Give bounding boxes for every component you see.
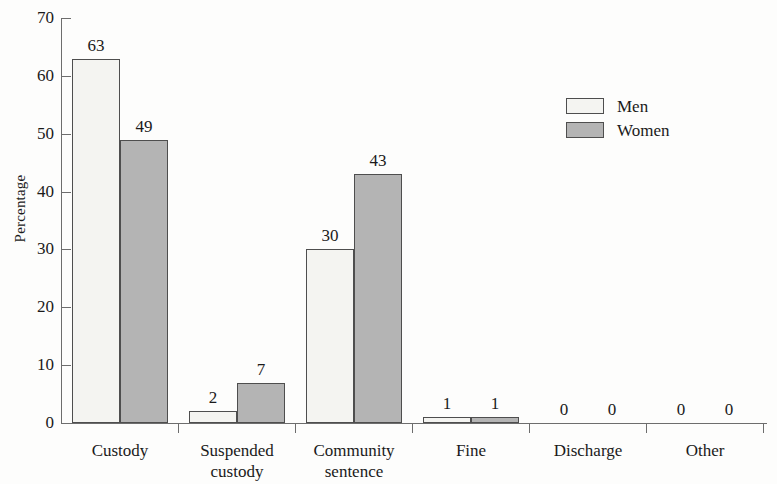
x-axis-tick [529, 424, 530, 433]
y-axis-tick-label: 60 [14, 67, 54, 84]
category-label-line: Suspended [171, 440, 303, 461]
category-label-3: Fine [405, 440, 537, 461]
y-axis-tick [61, 423, 71, 424]
bar-value-label: 0 [588, 401, 636, 418]
bar-value-label: 1 [423, 395, 471, 412]
bar-men-1 [189, 411, 237, 423]
legend: Men Women [566, 94, 669, 142]
bar-women-1 [237, 383, 285, 424]
category-label-line: Discharge [522, 440, 654, 461]
bar-men-2 [306, 249, 354, 423]
category-label-0: Custody [54, 440, 186, 461]
category-label-line: custody [171, 461, 303, 482]
bar-value-label: 7 [237, 361, 285, 378]
category-label-line: Community [288, 440, 420, 461]
x-axis-tick [178, 424, 179, 433]
y-axis-tick-label: 40 [14, 183, 54, 200]
y-axis-tick [61, 365, 71, 366]
bar-chart: Percentage 010203040506070 6349273043110… [0, 0, 777, 484]
category-label-line: Fine [405, 440, 537, 461]
category-label-line: sentence [288, 461, 420, 482]
category-label-5: Other [639, 440, 771, 461]
x-axis-tick [646, 424, 647, 433]
y-axis-tick [61, 249, 71, 250]
legend-swatch-men-icon [566, 98, 604, 114]
category-label-2: Communitysentence [288, 440, 420, 482]
category-label-line: Custody [54, 440, 186, 461]
bar-value-label: 1 [471, 395, 519, 412]
category-label-line: Other [639, 440, 771, 461]
bar-women-3 [471, 417, 519, 423]
x-axis-line [61, 423, 767, 424]
bar-value-label: 43 [354, 152, 402, 169]
y-axis-tick-label: 20 [14, 298, 54, 315]
y-axis-line [61, 18, 62, 423]
legend-item-men: Men [566, 94, 669, 118]
category-label-1: Suspendedcustody [171, 440, 303, 482]
bar-value-label: 30 [306, 227, 354, 244]
y-axis-tick [61, 18, 71, 19]
y-axis-tick-label: 30 [14, 240, 54, 257]
bar-men-3 [423, 417, 471, 423]
y-axis-tick-label: 50 [14, 125, 54, 142]
legend-item-women: Women [566, 118, 669, 142]
legend-label-women: Women [617, 122, 669, 139]
bar-value-label: 0 [540, 401, 588, 418]
y-axis-title: Percentage [12, 129, 29, 289]
x-axis-tick [412, 424, 413, 433]
bar-women-0 [120, 140, 168, 424]
legend-swatch-women-icon [566, 122, 604, 138]
y-axis-tick [61, 307, 71, 308]
y-axis-tick [61, 134, 71, 135]
bar-men-0 [72, 59, 120, 424]
bar-value-label: 49 [120, 118, 168, 135]
bar-value-label: 0 [657, 401, 705, 418]
y-axis-tick-label: 70 [14, 9, 54, 26]
x-axis-tick [295, 424, 296, 433]
legend-label-men: Men [617, 98, 648, 115]
category-label-4: Discharge [522, 440, 654, 461]
y-axis-tick [61, 76, 71, 77]
bar-value-label: 0 [705, 401, 753, 418]
bar-women-2 [354, 174, 402, 423]
bar-value-label: 63 [72, 37, 120, 54]
y-axis-tick-label: 10 [14, 356, 54, 373]
x-axis-tick [763, 424, 764, 433]
y-axis-tick [61, 192, 71, 193]
y-axis-tick-label: 0 [14, 414, 54, 431]
bar-value-label: 2 [189, 389, 237, 406]
